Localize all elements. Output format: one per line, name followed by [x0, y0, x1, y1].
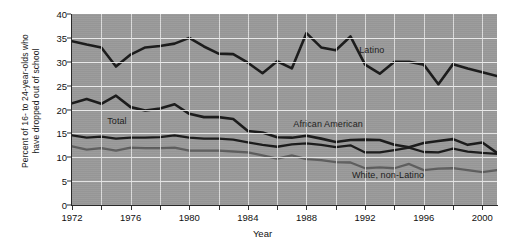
- x-tick-label: 1988: [296, 212, 317, 223]
- vertical-gridline: [277, 14, 278, 205]
- x-tick-mark: [365, 206, 366, 210]
- y-tick-label: 20: [45, 104, 67, 115]
- vertical-gridline: [336, 14, 337, 205]
- horizontal-gridline: [72, 86, 497, 87]
- vertical-gridline: [189, 14, 190, 205]
- chart-figure: Percent of 16- to 24-year-olds who have …: [0, 0, 525, 248]
- vertical-gridline: [453, 14, 454, 205]
- x-tick-label: 1972: [61, 212, 82, 223]
- y-axis-title-line1: Percent of 16- to 24-year-olds who: [20, 1, 31, 201]
- x-tick-label: 1992: [355, 212, 376, 223]
- y-axis-title: Percent of 16- to 24-year-olds who have …: [20, 1, 42, 201]
- y-tick-label: 10: [45, 152, 67, 163]
- x-tick-label: 1980: [179, 212, 200, 223]
- series-label-latino: Latino: [359, 45, 384, 55]
- y-tick-label: 40: [45, 9, 67, 20]
- x-tick-mark: [219, 206, 220, 210]
- horizontal-gridline: [72, 38, 497, 39]
- vertical-gridline: [160, 14, 161, 205]
- series-label-total: Total: [107, 116, 127, 126]
- horizontal-gridline: [72, 133, 497, 134]
- series-label-african-american: African American: [293, 119, 363, 129]
- vertical-gridline: [131, 14, 132, 205]
- y-tick-label: 30: [45, 56, 67, 67]
- vertical-gridline: [248, 14, 249, 205]
- horizontal-gridline: [72, 110, 497, 111]
- y-tick-label: 35: [45, 32, 67, 43]
- vertical-gridline: [482, 14, 483, 205]
- x-tick-mark: [306, 206, 307, 210]
- x-axis-title: Year: [0, 228, 525, 239]
- x-tick-mark: [131, 206, 132, 210]
- y-tick-label: 25: [45, 80, 67, 91]
- series-line-white-non-latino: [72, 146, 497, 172]
- horizontal-gridline: [72, 157, 497, 158]
- x-tick-mark: [277, 206, 278, 210]
- x-tick-mark: [482, 206, 483, 210]
- x-tick-mark: [424, 206, 425, 210]
- x-tick-mark: [394, 206, 395, 210]
- series-label-white-non-latino: White, non-Latino: [352, 170, 424, 180]
- series-line-latino: [72, 33, 497, 84]
- y-axis-ticks: 0510152025303540: [43, 0, 67, 248]
- vertical-gridline: [101, 14, 102, 205]
- x-tick-label: 1976: [120, 212, 141, 223]
- y-tick-label: 5: [45, 176, 67, 187]
- x-tick-label: 2000: [472, 212, 493, 223]
- vertical-gridline: [306, 14, 307, 205]
- y-axis-title-line2: have dropped out of school: [31, 1, 42, 201]
- x-tick-mark: [101, 206, 102, 210]
- y-tick-label: 0: [45, 200, 67, 211]
- vertical-gridline: [219, 14, 220, 205]
- x-axis-line: [71, 205, 498, 206]
- horizontal-gridline: [72, 62, 497, 63]
- x-tick-label: 1996: [413, 212, 434, 223]
- x-tick-mark: [160, 206, 161, 210]
- plot-area: LatinoAfrican AmericanTotalWhite, non-La…: [72, 14, 497, 205]
- y-tick-label: 15: [45, 128, 67, 139]
- x-tick-mark: [453, 206, 454, 210]
- horizontal-gridline: [72, 181, 497, 182]
- series-line-african-american: [72, 96, 497, 153]
- x-tick-label: 1984: [237, 212, 258, 223]
- x-tick-mark: [336, 206, 337, 210]
- x-tick-mark: [189, 206, 190, 210]
- x-tick-mark: [72, 206, 73, 210]
- x-tick-mark: [248, 206, 249, 210]
